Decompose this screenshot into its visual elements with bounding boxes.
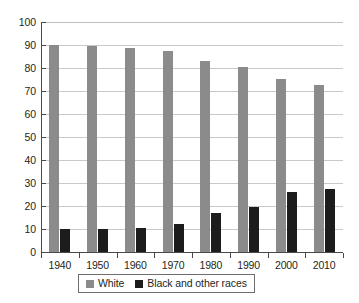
x-tick-mark-7 <box>305 253 306 258</box>
bar-black-and-other-races-2010[interactable] <box>325 189 335 252</box>
bar-group-1990 <box>230 22 268 252</box>
plot-area <box>41 22 343 252</box>
bar-black-and-other-races-1970[interactable] <box>174 224 184 252</box>
x-tick-label-2010: 2010 <box>305 259 343 271</box>
y-tick-label-90: 90 <box>10 40 36 50</box>
bar-white-2000[interactable] <box>276 79 286 252</box>
bar-white-2010[interactable] <box>314 85 324 252</box>
x-tick-label-1940: 1940 <box>41 259 79 271</box>
x-tick-label-1950: 1950 <box>79 259 117 271</box>
bar-black-and-other-races-1990[interactable] <box>249 207 259 252</box>
y-tick-mark-80 <box>41 68 46 69</box>
y-tick-mark-90 <box>41 45 46 46</box>
bar-group-1970 <box>154 22 192 252</box>
legend-item-black-and-other-races[interactable]: Black and other races <box>135 278 246 289</box>
x-tick-label-2000: 2000 <box>268 259 306 271</box>
bar-white-1940[interactable] <box>49 45 59 252</box>
x-tick-label-1970: 1970 <box>154 259 192 271</box>
x-axis-labels: 19401950196019701980199020002010 <box>41 259 344 273</box>
black-swatch-icon <box>135 280 143 288</box>
y-axis-labels: 0102030405060708090100 <box>5 0 36 303</box>
bar-black-and-other-races-1940[interactable] <box>60 229 70 252</box>
y-tick-mark-30 <box>41 183 46 184</box>
bar-group-1960 <box>117 22 155 252</box>
bar-white-1990[interactable] <box>238 67 248 252</box>
x-tick-label-1960: 1960 <box>117 259 155 271</box>
bar-group-1950 <box>79 22 117 252</box>
y-tick-label-80: 80 <box>10 63 36 73</box>
bar-group-1940 <box>41 22 79 252</box>
x-tick-mark-6 <box>268 253 269 258</box>
y-tick-label-60: 60 <box>10 109 36 119</box>
x-tick-label-1990: 1990 <box>230 259 268 271</box>
y-tick-mark-10 <box>41 229 46 230</box>
y-tick-label-100: 100 <box>10 17 36 27</box>
x-axis-ticks <box>41 253 344 258</box>
chart-legend: White Black and other races <box>78 274 255 293</box>
y-tick-mark-100 <box>41 22 46 23</box>
bar-group-1980 <box>192 22 230 252</box>
y-tick-label-70: 70 <box>10 86 36 96</box>
y-tick-mark-70 <box>41 91 46 92</box>
y-tick-label-10: 10 <box>10 224 36 234</box>
legend-label-black-and-other-races: Black and other races <box>147 278 246 289</box>
bar-white-1960[interactable] <box>125 48 135 252</box>
y-tick-mark-40 <box>41 160 46 161</box>
y-tick-mark-50 <box>41 137 46 138</box>
x-tick-mark-8 <box>343 253 344 258</box>
bar-black-and-other-races-1980[interactable] <box>211 213 221 252</box>
x-tick-mark-5 <box>230 253 231 258</box>
bar-chart-figure: 0102030405060708090100 19401950196019701… <box>0 0 359 303</box>
x-tick-mark-4 <box>192 253 193 258</box>
legend-item-white[interactable]: White <box>86 278 124 289</box>
y-tick-mark-60 <box>41 114 46 115</box>
bar-black-and-other-races-2000[interactable] <box>287 192 297 252</box>
bar-black-and-other-races-1960[interactable] <box>136 228 146 252</box>
y-tick-label-30: 30 <box>10 178 36 188</box>
bar-white-1970[interactable] <box>163 51 173 252</box>
x-tick-mark-3 <box>154 253 155 258</box>
bar-white-1980[interactable] <box>200 61 210 252</box>
bar-group-2010 <box>305 22 343 252</box>
bar-black-and-other-races-1950[interactable] <box>98 229 108 252</box>
y-tick-mark-20 <box>41 206 46 207</box>
y-tick-label-20: 20 <box>10 201 36 211</box>
x-tick-label-1980: 1980 <box>192 259 230 271</box>
bar-white-1950[interactable] <box>87 46 97 252</box>
bar-group-2000 <box>268 22 306 252</box>
x-tick-mark-0 <box>41 253 42 258</box>
y-tick-label-50: 50 <box>10 132 36 142</box>
y-tick-label-0: 0 <box>10 247 36 257</box>
gray-swatch-icon <box>86 280 94 288</box>
legend-label-white: White <box>98 278 124 289</box>
y-tick-label-40: 40 <box>10 155 36 165</box>
x-tick-mark-1 <box>79 253 80 258</box>
x-tick-mark-2 <box>117 253 118 258</box>
